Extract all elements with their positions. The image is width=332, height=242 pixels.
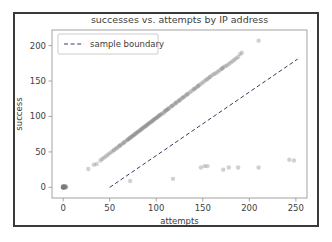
data-point: [292, 158, 296, 162]
x-tick-label: 250: [288, 203, 304, 213]
data-point: [86, 167, 90, 171]
data-point: [94, 162, 98, 166]
x-tick-label: 200: [241, 203, 257, 213]
scatter-chart: 050100150200250050100150200attemptssucce…: [0, 0, 332, 242]
legend-label: sample boundary: [90, 39, 164, 49]
data-point: [256, 38, 260, 42]
data-point: [64, 185, 68, 189]
data-point: [205, 164, 209, 168]
y-tick-label: 100: [30, 111, 46, 121]
data-point: [128, 179, 132, 183]
data-point: [221, 167, 225, 171]
y-tick-label: 0: [41, 182, 46, 192]
y-axis-label: success: [14, 97, 24, 131]
data-point: [240, 50, 244, 54]
x-axis-label: attempts: [160, 216, 199, 226]
data-point: [287, 158, 291, 162]
data-point: [236, 165, 240, 169]
y-tick-label: 200: [30, 41, 46, 51]
data-point: [171, 177, 175, 181]
data-point: [227, 165, 231, 169]
plot-frame: [52, 30, 307, 198]
y-tick-label: 50: [35, 147, 46, 157]
x-tick-label: 150: [195, 203, 211, 213]
figure-canvas: 050100150200250050100150200attemptssucce…: [0, 0, 332, 242]
x-tick-label: 50: [104, 203, 115, 213]
chart-title: successes vs. attempts by IP address: [91, 14, 268, 25]
y-tick-label: 150: [30, 76, 46, 86]
x-tick-label: 0: [60, 203, 65, 213]
x-tick-label: 100: [148, 203, 164, 213]
data-point: [256, 165, 260, 169]
